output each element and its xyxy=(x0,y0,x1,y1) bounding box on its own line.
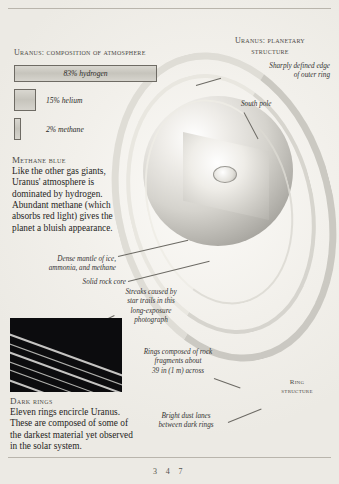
composition-bar-row: 83% hydrogen xyxy=(14,65,174,82)
annotation-core: Solid rock core xyxy=(44,278,126,287)
annotation-mantle: Dense mantle of ice, ammonia, and methan… xyxy=(12,255,116,274)
dark-rings-body: Eleven rings encircle Uranus. These are … xyxy=(10,407,138,452)
ring-structure-title-line1: Ring xyxy=(268,378,326,387)
methane-blue-block: Methane blue Like the other gas giants, … xyxy=(12,155,120,234)
composition-bar-row: 15% helium xyxy=(14,89,174,111)
annotation-star-trails: Streaks caused by star trails in this lo… xyxy=(112,288,190,325)
encyclopedia-page: Uranus: composition of atmosphere 83% hy… xyxy=(0,0,339,484)
composition-bar-row: 2% methane xyxy=(14,118,174,140)
structure-title-line1: Uranus: planetary xyxy=(215,36,325,47)
structure-title-line2: structure xyxy=(215,47,325,58)
dark-rings-photograph xyxy=(10,318,122,392)
annotation-south-pole: South pole xyxy=(241,100,321,109)
methane-blue-body: Like the other gas giants, Uranus' atmos… xyxy=(12,166,120,234)
bottom-rule xyxy=(8,457,331,458)
annotation-ring-fragments: Rings composed of rock fragments about 3… xyxy=(126,348,230,376)
bar-hydrogen-label: 83% hydrogen xyxy=(63,69,107,78)
bar-helium xyxy=(14,89,36,111)
page-number: 3 4 7 xyxy=(0,467,339,476)
ring-structure-title: Ring structure xyxy=(268,378,326,397)
bar-methane-label: 2% methane xyxy=(46,125,84,134)
bar-hydrogen: 83% hydrogen xyxy=(14,65,157,82)
top-rule xyxy=(8,8,331,9)
composition-title: Uranus: composition of atmosphere xyxy=(14,48,174,57)
bar-methane xyxy=(14,118,21,140)
annotation-dust-lanes: Bright dust lanes between dark rings xyxy=(138,412,234,431)
annotation-outer-ring-edge: Sharply defined edge of outer ring xyxy=(218,62,330,81)
structure-title: Uranus: planetary structure xyxy=(215,36,325,58)
bar-helium-label: 15% helium xyxy=(46,96,83,105)
ring-structure-title-line2: structure xyxy=(268,387,326,396)
composition-panel: Uranus: composition of atmosphere 83% hy… xyxy=(14,48,174,147)
methane-blue-heading: Methane blue xyxy=(12,155,120,165)
ring-streak xyxy=(10,340,122,392)
dark-rings-block: Dark rings Eleven rings encircle Uranus.… xyxy=(10,396,138,452)
dark-rings-heading: Dark rings xyxy=(10,396,138,406)
